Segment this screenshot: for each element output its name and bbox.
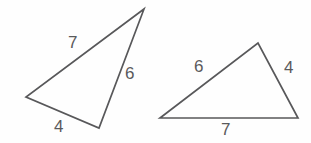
right-triangle-side-label-7: 7 [221, 121, 230, 138]
left-triangle-side-label-6: 6 [125, 65, 134, 82]
right-triangle-side-label-4: 4 [284, 59, 293, 76]
geometry-figure: 7 6 4 6 4 7 [0, 0, 311, 143]
left-triangle-side-label-7: 7 [68, 34, 77, 51]
right-triangle-outline [160, 43, 298, 118]
left-triangle-side-label-4: 4 [54, 118, 63, 135]
right-triangle-side-label-6: 6 [194, 58, 203, 75]
triangles-canvas [0, 0, 311, 143]
